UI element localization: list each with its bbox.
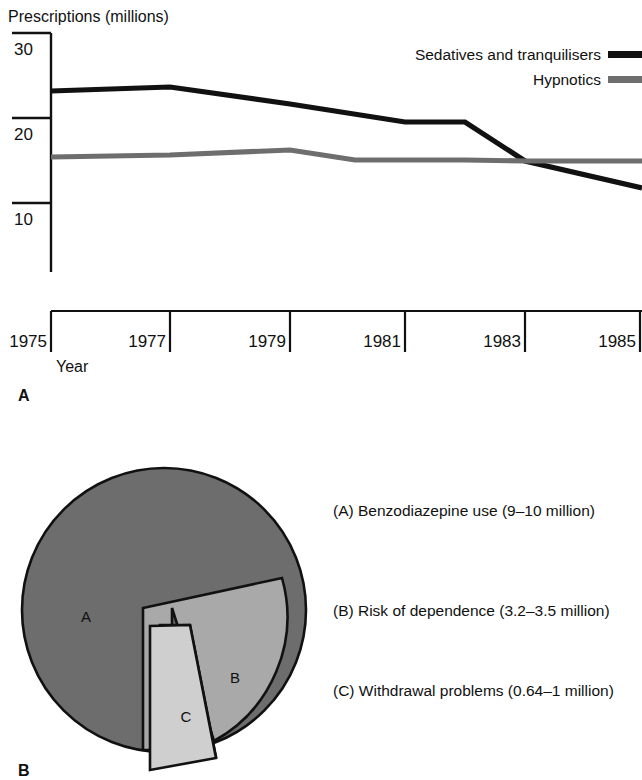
legend-label-hypnotics: Hypnotics xyxy=(533,71,601,88)
pie-legend-a: (A) Benzodiazepine use (9–10 million) xyxy=(333,502,595,519)
y-tick-label-20: 20 xyxy=(14,125,33,144)
pie-slice-label-a: A xyxy=(81,608,91,625)
x-tick-label-1977: 1977 xyxy=(128,332,166,351)
x-tick-label-1983: 1983 xyxy=(483,332,521,351)
panel-a-line-chart: Prescriptions (millions) 30 20 10 Sedati… xyxy=(0,0,642,430)
legend-swatch-sedatives xyxy=(608,51,642,58)
figure-root: Prescriptions (millions) 30 20 10 Sedati… xyxy=(0,0,642,780)
y-tick-label-10: 10 xyxy=(14,210,33,229)
x-tick-label-1981: 1981 xyxy=(363,332,401,351)
legend-swatch-hypnotics xyxy=(608,76,642,83)
panel-b-letter: B xyxy=(18,762,30,779)
y-axis-title: Prescriptions (millions) xyxy=(8,8,169,25)
pie-slice-label-c: C xyxy=(181,708,192,725)
panel-a-letter: A xyxy=(18,387,30,404)
y-tick-label-30: 30 xyxy=(14,40,33,59)
pie-slice-label-b: B xyxy=(230,669,240,686)
x-tick-label-1985: 1985 xyxy=(598,332,636,351)
x-axis-title: Year xyxy=(56,358,89,375)
pie-legend-b: (B) Risk of dependence (3.2–3.5 million) xyxy=(333,602,610,619)
x-tick-label-1975: 1975 xyxy=(9,332,47,351)
x-tick-label-1979: 1979 xyxy=(248,332,286,351)
series-line-sedatives xyxy=(51,87,642,188)
panel-b-pie-chart: A B C (A) Benzodiazepine use (9–10 milli… xyxy=(0,430,642,780)
pie-legend-c: (C) Withdrawal problems (0.64–1 million) xyxy=(333,682,614,699)
legend-label-sedatives: Sedatives and tranquilisers xyxy=(415,46,601,63)
series-line-hypnotics xyxy=(51,150,642,161)
